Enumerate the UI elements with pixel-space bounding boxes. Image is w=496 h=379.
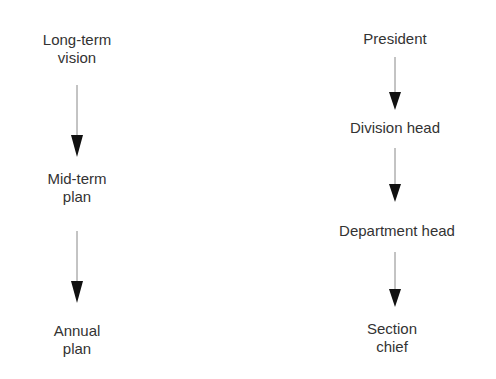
node-mid-term-plan: Mid-term plan [47, 170, 106, 206]
arrow-down-icon [70, 85, 84, 157]
node-section-chief: Section chief [367, 320, 417, 356]
node-president: President [363, 30, 426, 48]
arrow-down-icon [388, 252, 402, 307]
arrow-down-icon [388, 57, 402, 110]
arrow-down-icon [388, 148, 402, 202]
node-annual-plan: Annual plan [54, 322, 101, 358]
node-division-head: Division head [350, 119, 440, 137]
node-department-head: Department head [339, 222, 455, 240]
arrow-down-icon [70, 231, 84, 303]
node-long-term-vision: Long-term vision [43, 31, 111, 67]
